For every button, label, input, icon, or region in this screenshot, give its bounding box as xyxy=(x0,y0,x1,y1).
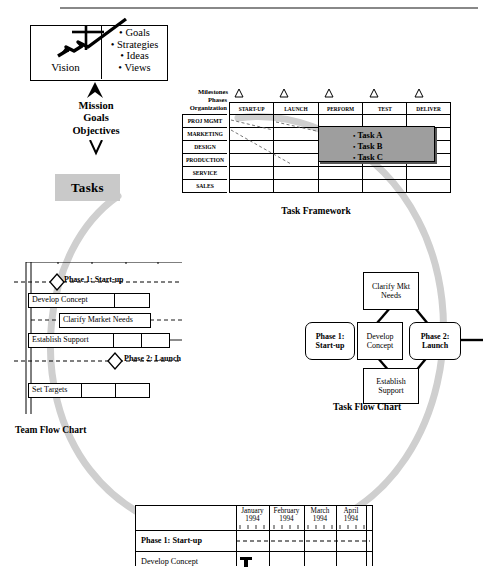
task-note-item: Task A xyxy=(353,130,434,141)
task-flow-chart-caption: Task Flow Chart xyxy=(333,402,473,412)
milestones-label: Milestones xyxy=(198,88,228,95)
table-header-row: START-UP LAUNCH PERFORM TEST DELIVER xyxy=(230,103,451,115)
flow-node-clarify-mkt-needs: Clarify Mkt Needs xyxy=(363,272,419,310)
gantt-task-marker-icon xyxy=(240,556,252,567)
team-task-bar: Establish Support xyxy=(28,333,170,348)
task-bar-segment xyxy=(141,334,170,347)
vision-bullet-item: • Ideas xyxy=(103,50,166,62)
task-framework: Milestones Phases Organization START-UP … xyxy=(183,88,451,204)
team-phase-label: Phase 2: Launch xyxy=(124,354,181,363)
task-bar-segment xyxy=(81,384,116,397)
phases-label: Phases xyxy=(182,96,227,104)
row-label: SALES xyxy=(182,179,227,193)
phase-milestone-diamond-icon xyxy=(50,274,64,290)
gantt-chart: January 1994 February 1994 March 1994 Ap… xyxy=(135,505,373,566)
flow-node-phase-2: Phase 2: Launch xyxy=(409,322,461,360)
vision-bullet-label: Strategies xyxy=(117,39,158,50)
team-phase-label: Phase 1: Start-up xyxy=(64,275,124,284)
tasks-label: Tasks xyxy=(55,180,120,196)
phase-milestone-diamond-icon xyxy=(108,353,122,369)
task-bar-segment xyxy=(113,334,142,347)
milestone-markers xyxy=(229,87,453,99)
vision-bullet-item: • Goals xyxy=(103,27,166,39)
team-task-bar: Develop Concept xyxy=(28,293,150,308)
mission-line: Goals xyxy=(52,112,140,124)
vision-bullet-label: Goals xyxy=(125,27,150,38)
column-header: DELIVER xyxy=(407,103,451,115)
column-header: START-UP xyxy=(230,103,274,115)
flow-node-label: Establish Support xyxy=(364,377,418,396)
task-note-item: Task B xyxy=(353,141,434,152)
flow-node-establish-support: Establish Support xyxy=(363,368,419,404)
milestone-triangle-icon xyxy=(235,89,243,97)
vision-bullet-label: Views xyxy=(124,62,150,73)
organization-label: Organization xyxy=(182,104,227,112)
milestone-triangle-icon xyxy=(370,89,378,97)
arrow-down-icon xyxy=(88,140,104,156)
team-task-label: Set Targets xyxy=(32,385,67,394)
vision-bullet-item: • Strategies xyxy=(103,39,166,51)
milestone-triangle-icon xyxy=(280,89,288,97)
flow-node-phase-1: Phase 1: Start-up xyxy=(305,322,355,360)
milestone-triangle-icon xyxy=(325,89,333,97)
gantt-row-divider xyxy=(136,551,372,552)
task-note-callout: Task A Task B Task C xyxy=(318,126,435,162)
row-label: PRODUCTION xyxy=(182,153,227,167)
task-bar-segment xyxy=(115,384,150,397)
row-label: MARKETING xyxy=(182,127,227,141)
milestone-triangle-icon xyxy=(415,89,423,97)
row-label: DESIGN xyxy=(182,140,227,154)
gantt-phase-bar xyxy=(236,540,370,542)
gantt-week-ruler xyxy=(236,525,370,529)
framework-row-labels: PROJ MGMT MARKETING DESIGN PRODUCTION SE… xyxy=(182,114,227,193)
mission-line: Mission xyxy=(52,100,140,112)
gantt-row-label: Develop Concept xyxy=(141,557,198,566)
team-task-label: Clarify Market Needs xyxy=(63,315,133,324)
team-task-bar: Set Targets xyxy=(28,383,150,398)
gantt-column-header: April 1994 xyxy=(336,507,366,524)
team-task-label: Develop Concept xyxy=(32,295,88,304)
gantt-row-divider xyxy=(136,530,372,531)
framework-corner-labels: Phases Organization xyxy=(182,96,227,112)
team-task-label: Establish Support xyxy=(32,335,89,344)
arrow-up-icon xyxy=(86,82,104,98)
column-header: TEST xyxy=(363,103,407,115)
gantt-column-divider xyxy=(366,506,367,566)
vision-label: Vision xyxy=(30,61,101,73)
vision-bullet-list: • Goals • Strategies • Ideas • Views xyxy=(103,27,166,73)
header-divider xyxy=(60,7,478,9)
flow-node-label: Clarify Mkt Needs xyxy=(364,282,418,301)
flow-node-label: Develop Concept xyxy=(358,332,402,351)
flow-node-develop-concept: Develop Concept xyxy=(357,322,403,360)
gantt-column-header: February 1994 xyxy=(269,507,304,524)
gantt-column-header: March 1994 xyxy=(304,507,336,524)
mission-line: Objectives xyxy=(52,125,140,137)
column-header: LAUNCH xyxy=(274,103,319,115)
task-flow-chart: Clarify Mkt Needs Phase 1: Start-up Deve… xyxy=(305,262,483,402)
team-flow-chart-caption: Team Flow Chart xyxy=(15,425,155,435)
gantt-row-label: Phase 1: Start-up xyxy=(141,536,202,545)
gantt-column-header: January 1994 xyxy=(236,507,269,524)
vision-bullet-label: Ideas xyxy=(127,50,149,61)
task-note-item: Task C xyxy=(353,152,434,163)
row-label: PROJ MGMT xyxy=(182,114,227,128)
task-bar-segment xyxy=(114,294,150,307)
flow-node-label: Phase 2: Launch xyxy=(410,332,460,351)
row-label: SERVICE xyxy=(182,166,227,180)
flow-node-label: Phase 1: Start-up xyxy=(306,332,354,351)
mission-goals-objectives: Mission Goals Objectives xyxy=(52,100,140,137)
team-task-bar: Clarify Market Needs xyxy=(59,313,151,328)
column-header: PERFORM xyxy=(318,103,363,115)
task-framework-caption: Task Framework xyxy=(256,206,376,216)
team-flow-chart: Phase 1: Start-up Phase 2: Launch Develo… xyxy=(6,262,186,420)
vision-bullet-item: • Views xyxy=(103,62,166,74)
